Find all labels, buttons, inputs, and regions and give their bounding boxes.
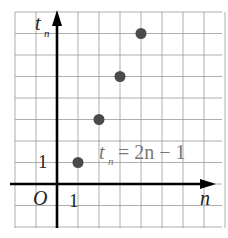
formula-subscript: n <box>108 155 114 167</box>
chart: t n n O 1 1 t n = 2n − 1 <box>0 0 228 238</box>
data-point <box>136 28 147 39</box>
x-axis-label: n <box>200 187 210 209</box>
data-point <box>115 71 126 82</box>
data-point <box>73 157 84 168</box>
formula-t: t <box>99 141 105 163</box>
x-tick-label: 1 <box>69 190 79 211</box>
y-tick-label: 1 <box>38 151 48 172</box>
y-axis-label: t <box>35 12 41 34</box>
data-point <box>94 114 105 125</box>
origin-label: O <box>33 187 47 209</box>
y-axis-label-subscript: n <box>44 27 50 39</box>
formula-rhs: = 2n − 1 <box>118 141 186 163</box>
